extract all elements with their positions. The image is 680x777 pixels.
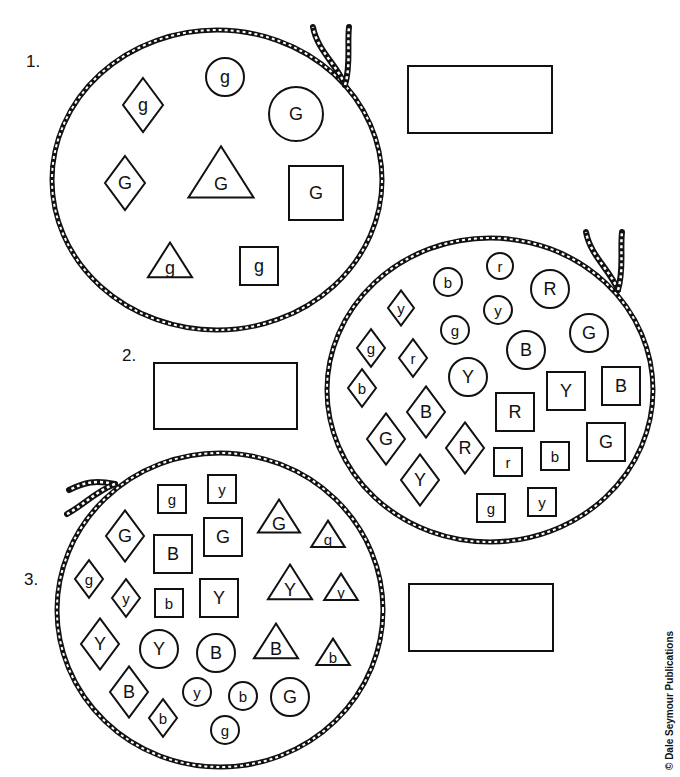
diamond-shape: y: [388, 290, 414, 325]
triangle-shape: G: [188, 146, 253, 197]
square-shape: y: [528, 488, 556, 516]
square-shape: y: [208, 475, 236, 503]
circle-shape: R: [531, 270, 569, 308]
rope-loop-3: gyGBGGggybYYyYYBBbBybGbg: [57, 453, 383, 767]
square-shape: b: [541, 442, 569, 470]
diamond-shape: B: [407, 386, 445, 437]
shape-letter: y: [337, 584, 345, 601]
diamond-shape: G: [367, 413, 405, 464]
square-shape: r: [494, 448, 522, 476]
triangle-shape: g: [311, 521, 345, 549]
problem-1-answer-box[interactable]: [407, 65, 553, 134]
shape-letter: y: [397, 300, 405, 317]
diamond-shape: b: [149, 699, 177, 737]
shape-letter: Y: [153, 639, 165, 659]
shape-letter: b: [358, 380, 366, 397]
shape-letter: G: [272, 514, 286, 534]
shape-letter: G: [214, 174, 228, 194]
square-shape: G: [289, 166, 343, 220]
shape-letter: Y: [213, 588, 225, 608]
diamond-shape: G: [105, 156, 145, 210]
problem-2-number: 2.: [122, 346, 136, 366]
shape-letter: g: [367, 340, 375, 357]
square-shape: g: [240, 247, 278, 285]
shape-letter: g: [138, 95, 148, 115]
triangle-shape: B: [254, 624, 298, 659]
square-shape: Y: [200, 579, 238, 617]
shape-letter: g: [254, 256, 264, 276]
square-shape: G: [204, 518, 242, 556]
shape-letter: r: [506, 454, 511, 471]
rope-loop-1: ggGGGGgg: [52, 27, 382, 330]
diamond-shape: Y: [81, 618, 119, 669]
shape-letter: B: [520, 340, 532, 360]
shape-letter: Y: [284, 580, 296, 600]
diamond-shape: y: [112, 579, 140, 617]
shape-letter: B: [270, 639, 282, 659]
shape-letter: g: [85, 571, 93, 588]
shape-letter: b: [239, 688, 247, 705]
square-shape: R: [496, 393, 534, 431]
diamond-shape: g: [123, 78, 163, 132]
shape-letter: G: [118, 526, 132, 546]
shape-letter: Y: [414, 470, 426, 490]
diamond-shape: R: [446, 422, 484, 473]
shape-letter: g: [324, 531, 332, 548]
square-shape: Y: [547, 372, 585, 410]
shape-letter: G: [118, 173, 132, 193]
shape-letter: y: [538, 494, 546, 511]
shape-letter: B: [420, 402, 432, 422]
shape-letter: B: [123, 682, 135, 702]
shape-letter: R: [544, 279, 557, 299]
triangle-shape: y: [324, 574, 358, 602]
circle-shape: g: [206, 58, 244, 96]
shape-letter: y: [494, 302, 502, 319]
circle-shape: G: [570, 314, 608, 352]
triangle-shape: Y: [268, 565, 312, 600]
circle-shape: y: [484, 296, 512, 324]
shape-letter: G: [582, 323, 596, 343]
shape-letter: G: [283, 687, 297, 707]
square-shape: b: [155, 589, 183, 617]
shape-letter: b: [159, 710, 167, 727]
circle-shape: r: [487, 253, 513, 279]
problem-1-number: 1.: [26, 52, 40, 72]
shape-letter: g: [165, 258, 175, 278]
problem-2-answer-box[interactable]: [153, 362, 298, 430]
shape-letter: B: [615, 376, 627, 396]
circle-shape: g: [441, 316, 469, 344]
shape-letter: G: [599, 432, 613, 452]
shape-letter: Y: [462, 367, 474, 387]
rope-loops-drawing: ggGGGGggbrRyygGgrBYbYBBRGRGrbYgygyGBGGgg…: [0, 0, 680, 777]
square-shape: G: [587, 423, 625, 461]
shape-letter: B: [210, 643, 222, 663]
problem-3-answer-box[interactable]: [408, 583, 554, 652]
shape-letter: g: [220, 67, 230, 87]
shape-letter: g: [168, 491, 176, 508]
shape-letter: b: [165, 595, 173, 612]
shape-letter: g: [451, 322, 459, 339]
triangle-shape: g: [148, 243, 192, 278]
circle-shape: y: [183, 678, 211, 706]
diamond-shape: g: [75, 560, 103, 598]
shape-letter: g: [221, 722, 229, 739]
shape-letter: r: [411, 350, 416, 367]
circle-shape: Y: [140, 630, 178, 668]
diamond-shape: g: [357, 329, 385, 367]
shape-letter: b: [551, 448, 559, 465]
circle-shape: b: [434, 268, 462, 296]
shape-letter: R: [459, 438, 472, 458]
diamond-shape: B: [110, 666, 148, 717]
square-shape: g: [477, 494, 505, 522]
shape-letter: Y: [94, 634, 106, 654]
circle-shape: B: [507, 331, 545, 369]
circle-shape: B: [197, 634, 235, 672]
diamond-shape: Y: [401, 454, 439, 505]
shape-letter: y: [193, 684, 201, 701]
circle-shape: G: [271, 678, 309, 716]
copyright-notice: © Dale Seymour Publications: [664, 631, 675, 770]
triangle-shape: b: [316, 639, 350, 667]
shape-letter: y: [218, 481, 226, 498]
shape-letter: b: [444, 274, 452, 291]
diamond-shape: G: [106, 510, 144, 561]
